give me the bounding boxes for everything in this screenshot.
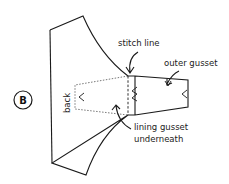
lining-gusset-outline	[75, 76, 128, 115]
stitch-line-arrow-icon	[126, 52, 138, 73]
notch-outer-gusset-right	[182, 90, 187, 98]
back-piece-left-edge	[50, 30, 52, 163]
lining-gusset-label-2: underneath	[134, 134, 183, 144]
badge-label: B	[19, 95, 27, 106]
back-label: back	[62, 93, 72, 113]
stitch-line-label: stitch line	[118, 38, 160, 48]
notch-back	[79, 93, 84, 101]
lining-gusset-label-1: lining gusset	[134, 122, 189, 132]
sewing-diagram: B back stitch line outer gusset lining g…	[0, 0, 229, 184]
outer-gusset-label: outer gusset	[164, 58, 218, 68]
outer-gusset-outline	[128, 76, 188, 115]
